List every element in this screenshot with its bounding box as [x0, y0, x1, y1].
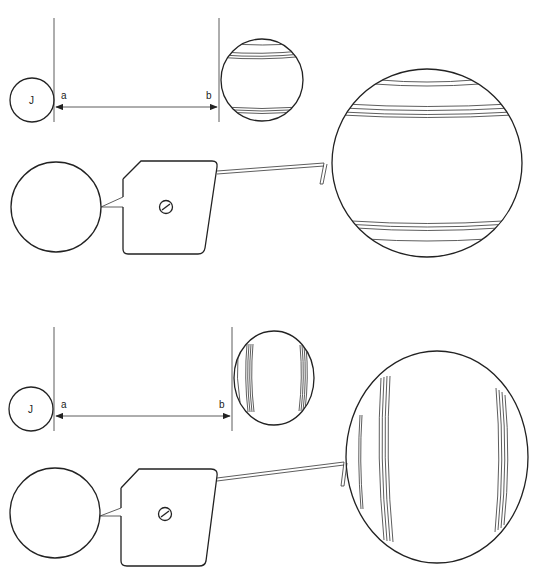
instrument-body-bottom: [121, 469, 217, 566]
planet-small-top: [221, 39, 303, 121]
moon-label: J: [28, 404, 33, 415]
planet-large-top: [332, 69, 522, 257]
telescope-tube-top: [217, 163, 324, 174]
screw-icon-bottom: [159, 508, 172, 521]
observer-eye-bottom: [10, 468, 100, 558]
diagram-canvas: J a b: [0, 0, 539, 574]
instrument-body-top: [123, 161, 217, 254]
planet-large-bottom: [346, 351, 528, 563]
moon-j-bottom: J: [9, 387, 53, 431]
telescope-tube-bottom: [217, 462, 344, 481]
label-a: a: [61, 90, 67, 101]
label-b: b: [206, 90, 212, 101]
label-b: b: [219, 399, 225, 410]
top-panel: J a b: [10, 18, 522, 257]
moon-j-top: J: [10, 78, 54, 122]
observer-eye-top: [11, 162, 101, 252]
eye-connector-top: [101, 197, 123, 207]
planet-small-bottom: [234, 331, 314, 425]
eye-connector-bottom: [100, 508, 121, 516]
screw-icon-top: [160, 201, 173, 214]
moon-label: J: [29, 95, 34, 106]
bottom-panel: J a b: [9, 327, 528, 566]
label-a: a: [61, 399, 67, 410]
